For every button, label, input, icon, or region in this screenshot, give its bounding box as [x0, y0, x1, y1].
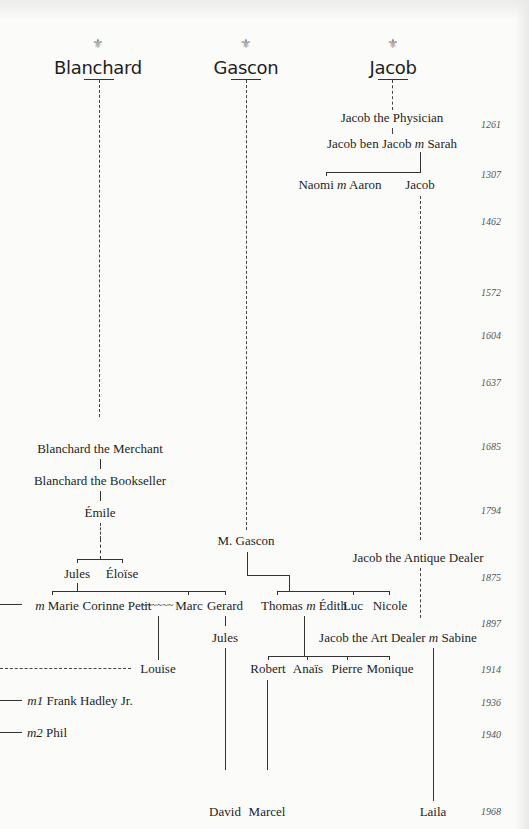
- tick: [389, 591, 390, 595]
- marriage-line: [0, 732, 22, 733]
- descent-line: [100, 491, 101, 501]
- person-marie: Marie: [48, 598, 79, 613]
- married-marker: m: [429, 630, 438, 645]
- tick: [326, 172, 327, 176]
- person-jacob-the-antique-dealer: Jacob the Antique Dealer: [352, 550, 483, 565]
- page-edge-shadow: [515, 0, 529, 829]
- person-frank-hadley-jr: Frank Hadley Jr.: [46, 693, 132, 708]
- person-sarah: Sarah: [427, 136, 457, 151]
- marriage-line: [0, 604, 22, 605]
- person-jacob: Jacob: [405, 177, 435, 192]
- lineage-line: [100, 523, 101, 539]
- person-phil: Phil: [46, 725, 67, 740]
- person-jacob-ben-jacob: Jacob ben Jacob: [327, 136, 411, 151]
- descent-line: [100, 459, 101, 469]
- person-blanchard-the-merchant: Blanchard the Merchant: [37, 441, 163, 456]
- lineage-line: [420, 568, 421, 618]
- person-emile: Émile: [84, 505, 115, 520]
- person-marcel: Marcel: [249, 804, 286, 819]
- family-title-blanchard: Blanchard: [54, 57, 142, 78]
- descent-line: [304, 616, 305, 656]
- person-thomas: Thomas: [261, 598, 303, 613]
- person-naomi: Naomi: [298, 177, 333, 192]
- person-jules: Jules: [64, 566, 90, 581]
- person-jacob-the-physician: Jacob the Physician: [341, 110, 444, 125]
- person-sabine: Sabine: [441, 630, 476, 645]
- couple-jacob-ben-jacob-sarah: Jacob ben Jacob m Sarah: [327, 136, 457, 151]
- person-blanchard-the-bookseller: Blanchard the Bookseller: [34, 473, 166, 488]
- affair-marker: ~~~~~~: [141, 597, 173, 612]
- sibling-bar: [52, 591, 226, 592]
- descent-line: [158, 616, 159, 660]
- fleur-de-lis-icon: ⚜: [92, 36, 104, 52]
- couple-marie: m Marie: [35, 598, 79, 613]
- person-nicole: Nicole: [373, 598, 408, 613]
- sibling-bar: [326, 172, 421, 173]
- tick: [188, 591, 189, 595]
- married-marker: m: [337, 177, 346, 192]
- lineage-line: [392, 128, 393, 134]
- year-label: 1968: [481, 806, 501, 817]
- person-laila: Laila: [420, 804, 447, 819]
- descent-line: [100, 539, 101, 559]
- descent-line: [289, 575, 290, 591]
- person-marc: Marc: [175, 598, 202, 613]
- year-label: 1604: [481, 330, 501, 341]
- sibling-bar: [77, 559, 123, 560]
- lineage-line: [392, 80, 393, 110]
- tick: [353, 591, 354, 595]
- year-label: 1897: [481, 618, 501, 629]
- year-label: 1572: [481, 287, 501, 298]
- fleur-de-lis-icon: ⚜: [387, 36, 399, 52]
- lineage-line: [420, 196, 421, 540]
- couple-frank-hadley: m1 Frank Hadley Jr.: [27, 693, 132, 708]
- page-top-shadow: [0, 0, 529, 20]
- tick: [277, 591, 278, 595]
- year-label: 1940: [481, 729, 501, 740]
- descent-line: [225, 616, 226, 626]
- fleur-de-lis-icon: ⚜: [240, 36, 252, 52]
- person-jacob-the-art-dealer: Jacob the Art Dealer: [319, 630, 425, 645]
- descent-line: [77, 583, 78, 591]
- header-underline: [378, 79, 408, 80]
- person-eloise: Éloïse: [106, 566, 139, 581]
- tick: [52, 591, 53, 595]
- year-label: 1307: [481, 169, 501, 180]
- person-pierre: Pierre: [331, 661, 362, 676]
- tick: [77, 559, 78, 563]
- married-marker: m: [306, 598, 315, 613]
- descent-line: [420, 152, 421, 172]
- relation-line: [0, 668, 131, 669]
- couple-jacob-art-dealer-sabine: Jacob the Art Dealer m Sabine: [319, 630, 477, 645]
- tick: [122, 559, 123, 563]
- sibling-bar: [277, 591, 390, 592]
- year-label: 1875: [481, 572, 501, 583]
- descent-line: [247, 552, 248, 575]
- year-label: 1914: [481, 664, 501, 675]
- year-label: 1462: [481, 216, 501, 227]
- year-label: 1794: [481, 505, 501, 516]
- person-aaron: Aaron: [349, 177, 382, 192]
- family-title-jacob: Jacob: [369, 57, 416, 78]
- person-m-gascon: M. Gascon: [217, 533, 274, 548]
- married-marker: m: [415, 136, 424, 151]
- connector-line: [247, 575, 289, 576]
- person-anais: Anaïs: [293, 661, 323, 676]
- sibling-bar: [268, 656, 390, 657]
- marriage-line: [0, 700, 22, 701]
- person-robert: Robert: [250, 661, 285, 676]
- year-label: 1261: [481, 119, 501, 130]
- family-title-gascon: Gascon: [214, 57, 279, 78]
- tick: [307, 656, 308, 660]
- year-label: 1637: [481, 377, 501, 388]
- year-label: 1936: [481, 697, 501, 708]
- married-marker: m1: [27, 693, 43, 708]
- descent-line: [433, 648, 434, 801]
- person-luc: Luc: [343, 598, 363, 613]
- person-monique: Monique: [367, 661, 414, 676]
- married-marker: m: [35, 598, 44, 613]
- lineage-line: [246, 80, 247, 530]
- lineage-line: [99, 80, 100, 417]
- couple-naomi-aaron: Naomi m Aaron: [298, 177, 381, 192]
- year-label: 1685: [481, 441, 501, 452]
